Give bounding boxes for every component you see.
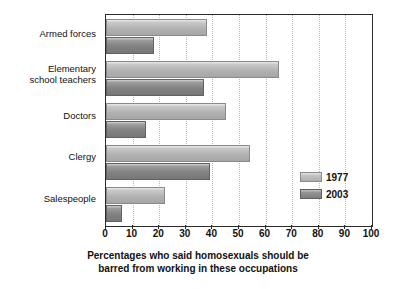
bar-1977-2: [106, 103, 226, 120]
legend-entry-1977: 1977: [300, 170, 364, 184]
bar-1977-0: [106, 19, 207, 36]
bar-1977-3: [106, 145, 250, 162]
bar-2003-2: [106, 121, 146, 138]
x-tick-label-40: 40: [206, 228, 217, 239]
category-label-armed-forces: Armed forces: [0, 27, 96, 38]
x-tick-label-90: 90: [339, 228, 350, 239]
x-tick-label-10: 10: [126, 228, 137, 239]
bar-2003-1: [106, 79, 204, 96]
bar-2003-3: [106, 163, 210, 180]
legend: 1977 2003: [300, 170, 364, 204]
legend-swatch-2003: [300, 189, 322, 199]
gridline-50: [239, 15, 241, 226]
legend-entry-2003: 2003: [300, 187, 364, 201]
gridline-30: [186, 15, 188, 226]
x-tick-label-100: 100: [363, 228, 380, 239]
category-label-elementary-teachers: Elementary school teachers: [0, 63, 96, 85]
legend-label-1977: 1977: [326, 172, 348, 183]
x-axis-title-line1: Percentages who said homosexuals should …: [0, 250, 396, 263]
category-label-salespeople: Salespeople: [0, 192, 96, 203]
category-label-clergy: Clergy: [0, 151, 96, 162]
bar-2003-4: [106, 205, 122, 222]
bar-chart: Armed forces Elementary school teachers …: [0, 0, 396, 289]
category-label-doctors: Doctors: [0, 110, 96, 121]
x-tick-label-60: 60: [259, 228, 270, 239]
legend-swatch-1977: [300, 172, 322, 182]
x-axis-title: Percentages who said homosexuals should …: [0, 250, 396, 275]
gridline-40: [212, 15, 214, 226]
gridline-70: [292, 15, 294, 226]
x-tick-label-30: 30: [179, 228, 190, 239]
x-tick-label-80: 80: [312, 228, 323, 239]
bar-1977-1: [106, 61, 279, 78]
x-tick-label-50: 50: [232, 228, 243, 239]
x-axis: 0102030405060708090100: [105, 225, 373, 241]
bar-2003-0: [106, 37, 154, 54]
x-tick-label-0: 0: [102, 228, 108, 239]
x-tick-label-20: 20: [153, 228, 164, 239]
gridline-60: [266, 15, 268, 226]
category-axis-labels: Armed forces Elementary school teachers …: [0, 14, 100, 225]
bar-1977-4: [106, 187, 165, 204]
x-axis-title-line2: barred from working in these occupations: [0, 263, 396, 276]
legend-label-2003: 2003: [326, 189, 348, 200]
x-tick-label-70: 70: [286, 228, 297, 239]
